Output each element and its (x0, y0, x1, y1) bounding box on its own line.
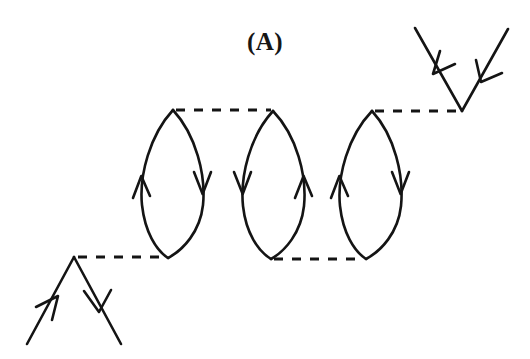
diagram-canvas (0, 0, 530, 359)
external-legs-lower-left (27, 257, 121, 344)
feynman-diagram-figure: (A) (0, 0, 530, 359)
bubble-loop-1 (133, 110, 211, 258)
external-legs-upper-right (415, 28, 508, 111)
bubble-loop-1-left-arc (142, 110, 173, 258)
external-leg-incoming-upper-right (462, 29, 508, 111)
bubble-loop-3 (331, 111, 409, 259)
external-leg-outgoing-lower-right (74, 257, 121, 344)
external-leg-outgoing-upper-left (415, 28, 462, 111)
bubble-loop-2 (234, 111, 312, 259)
external-leg-outgoing-upper-left-arrow-icon (433, 51, 455, 74)
